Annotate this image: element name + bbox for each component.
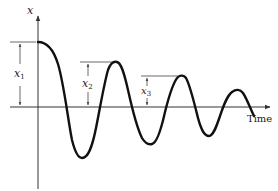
x3-label: x3 bbox=[141, 86, 151, 96]
y-axis-label: x bbox=[27, 5, 33, 16]
x2-label-subscript: 2 bbox=[88, 83, 92, 91]
x3-label-subscript: 3 bbox=[147, 90, 151, 98]
x2-label: x2 bbox=[82, 78, 93, 89]
oscillation-curve bbox=[38, 42, 254, 158]
x1-label: x1 bbox=[14, 68, 25, 79]
damped-oscillation-diagram bbox=[0, 0, 278, 191]
x1-label-subscript: 1 bbox=[20, 73, 24, 81]
time-axis-label: Time bbox=[247, 114, 272, 124]
x3-label-name: x bbox=[141, 85, 147, 96]
